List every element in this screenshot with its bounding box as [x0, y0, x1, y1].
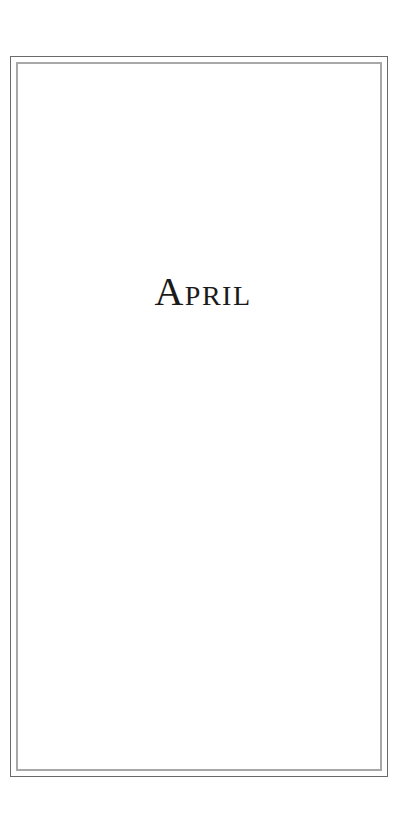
inner-frame-border: [16, 62, 382, 771]
page-title: April: [0, 272, 406, 312]
